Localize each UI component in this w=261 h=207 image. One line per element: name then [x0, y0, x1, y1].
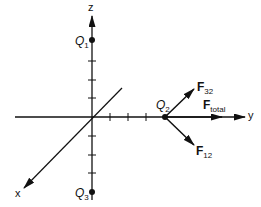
- force-f12-label: F12: [196, 145, 212, 160]
- charge-q1-label: Q1: [75, 35, 89, 50]
- z-axis-label: z: [88, 2, 94, 13]
- z-axis: [88, 16, 96, 200]
- charge-q3-dot: [89, 189, 95, 195]
- charge-q1-dot: [89, 37, 95, 43]
- force-f12-arrow: [165, 117, 194, 145]
- x-axis: [24, 88, 122, 188]
- force-ftotal-label: Ftotal: [203, 99, 225, 114]
- charge-q3-label: Q3: [75, 187, 89, 202]
- charge-q2-label: Q2: [156, 99, 170, 114]
- y-axis-label: y: [248, 110, 254, 121]
- force-f32-label: F32: [197, 81, 213, 96]
- x-axis-label: x: [15, 188, 21, 199]
